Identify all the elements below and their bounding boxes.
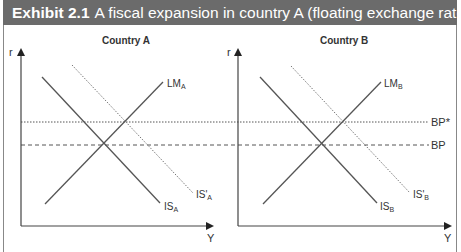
- is-label: ISB: [380, 201, 394, 213]
- panel-title: Country A: [102, 35, 150, 46]
- is-label: ISA: [164, 201, 178, 213]
- lm-label: LMA: [167, 78, 186, 90]
- panel-title: Country B: [320, 35, 368, 46]
- is-lm-bp-diagram: BP* BP Country A r Y LMA ISA IS'A Countr…: [0, 0, 461, 252]
- lm-curve: [45, 82, 163, 204]
- panel-country-a: Country A r Y LMA ISA IS'A: [9, 35, 215, 244]
- is-shifted-label: IS'A: [196, 189, 212, 201]
- y-axis-label: r: [9, 46, 13, 58]
- panel-country-b: Country B r Y LMB ISB IS'B: [227, 35, 452, 244]
- y-axis-label: r: [227, 46, 231, 58]
- x-axis-label: Y: [207, 232, 215, 244]
- is-shifted-label: IS'B: [413, 189, 429, 201]
- is-curve: [260, 77, 377, 203]
- x-axis-label: Y: [444, 232, 452, 244]
- bp-star-label: BP*: [431, 116, 451, 128]
- bp-label: BP: [431, 139, 446, 151]
- lm-label: LMB: [384, 78, 403, 90]
